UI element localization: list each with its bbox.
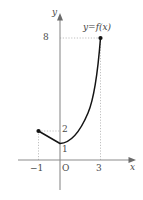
x-axis-tick-label-neg1: −1 (30, 164, 43, 173)
endpoint-dot-right (98, 36, 102, 40)
endpoint-dot-left (36, 129, 40, 133)
plot-canvas (0, 0, 143, 200)
function-label: y=f(x) (83, 23, 111, 32)
origin-label: O (62, 164, 69, 173)
x-axis-label: x (130, 163, 135, 172)
function-curve (39, 38, 101, 144)
graph-figure: 8 2 1 −1 O 3 y x y=f(x) (0, 0, 143, 200)
x-axis-tick-label-3: 3 (96, 164, 102, 173)
y-axis-label: y (52, 8, 57, 17)
y-axis-tick-label-8: 8 (43, 33, 49, 42)
y-axis-arrow-icon (57, 13, 63, 21)
y-axis-tick-label-2: 2 (62, 125, 68, 134)
y-axis-tick-label-1: 1 (62, 145, 68, 154)
